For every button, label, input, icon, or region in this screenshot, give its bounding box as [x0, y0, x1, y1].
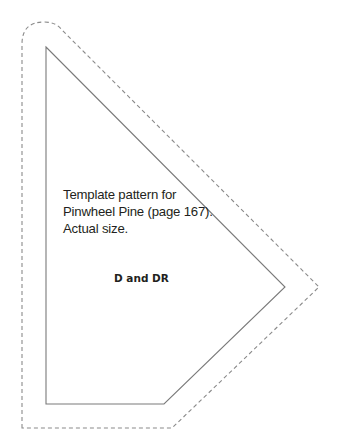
caption-line-2: Pinwheel Pine (page 167).: [63, 203, 213, 220]
piece-label: D and DR: [114, 272, 169, 284]
caption-line-3: Actual size.: [63, 220, 213, 237]
template-caption: Template pattern for Pinwheel Pine (page…: [63, 186, 213, 237]
caption-line-1: Template pattern for: [63, 186, 213, 203]
